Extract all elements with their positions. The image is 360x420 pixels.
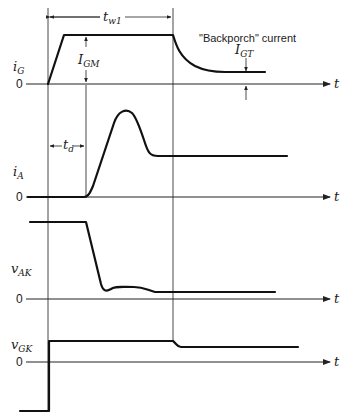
- svg-text:IGM: IGM: [77, 52, 100, 69]
- svg-text:t: t: [334, 189, 340, 204]
- svg-text:iG: iG: [13, 59, 24, 76]
- svg-text:0: 0: [16, 77, 23, 91]
- svg-text:td: td: [63, 137, 74, 154]
- trace-ia: iA 0 t: [13, 111, 340, 204]
- svg-text:iA: iA: [13, 164, 24, 181]
- svg-text:vGK: vGK: [11, 337, 34, 354]
- svg-text:t: t: [334, 76, 340, 91]
- trace-ig: iG 0 t IGM "Backporch" current IGT: [13, 32, 340, 100]
- svg-text:tw1: tw1: [103, 9, 122, 26]
- trace-vgk: vGK 0 t: [11, 337, 340, 411]
- svg-text:vAK: vAK: [11, 261, 33, 278]
- svg-text:t: t: [334, 291, 340, 306]
- thyristor-timing-diagram: tw1 iG 0 t IGM "Backporch" current IGT t…: [0, 0, 360, 420]
- svg-text:t: t: [334, 354, 340, 369]
- svg-text:IGT: IGT: [234, 42, 254, 59]
- pulse-width-dimension: tw1: [50, 9, 171, 26]
- delay-dimension: td: [50, 137, 84, 154]
- svg-text:0: 0: [16, 292, 23, 306]
- svg-text:0: 0: [16, 355, 23, 369]
- svg-text:"Backporch" current: "Backporch" current: [199, 32, 296, 44]
- trace-vak: vAK 0 t: [11, 222, 340, 306]
- svg-text:0: 0: [16, 190, 23, 204]
